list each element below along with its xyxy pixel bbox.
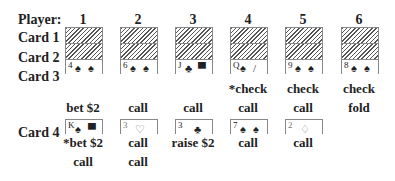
player-5-header: 5 [284,12,322,28]
p3-round3-action: call [163,101,223,115]
card-rank: 7 [233,120,238,130]
spade-icon: ♠ [240,123,246,135]
face-card-art-icon: / [253,63,256,73]
player-1-card4: K ♠ ▀ [65,119,103,134]
player-1-hand: 4 ♠ ♠ [65,27,103,74]
p4-round4-action: call [218,136,278,150]
player-6-header: 6 [340,12,378,28]
player-3-card4: 3 ♣ [175,119,213,134]
player-5-hand: 9 ♠ ♠ [285,27,323,74]
spade-icon: ♠ [351,63,357,73]
player-3-header: 3 [174,12,212,28]
p1-round4-action-2: call [53,155,113,169]
player-5-card4: 2 ♢ [285,119,323,134]
card-rank: K [68,120,75,130]
card-rank: 6 [123,60,128,70]
p1-round4-action-1: *bet $2 [53,136,113,150]
card-face: J ♣ ▀ [176,60,212,74]
player-4-header: 4 [229,12,267,28]
face-down-card-icon [176,28,212,44]
face-down-card-icon [231,44,267,60]
face-down-card-icon [231,28,267,44]
face-card-art-icon: ▀ [198,63,206,73]
card3-label: Card 3 [18,69,60,85]
face-down-card-icon [176,44,212,60]
spade-icon: ♠ [240,63,246,73]
face-card-art-icon: ▀ [88,123,96,135]
card-rank: 4 [68,60,73,70]
spade-icon: ♠ [295,63,301,73]
player-2-card4: 3 ♡ [120,119,158,134]
p1-round3-action: bet $2 [53,101,113,115]
player-label: Player: [18,12,62,28]
card-face: Q ♠ / [231,60,267,74]
player-2-header: 2 [119,12,157,28]
card-face: 9 ♠ ♠ [286,60,322,74]
face-down-card-icon [342,28,378,44]
card-rank: Q [233,60,240,70]
player-4-card4: 7 ♠ ♠ [230,119,268,134]
spade-icon: ♠ [143,63,149,73]
p2-round4-action-1: call [108,136,168,150]
card-rank: 9 [288,60,293,70]
face-down-card-icon [286,44,322,60]
card-face: 4 ♠ ♠ [66,60,102,74]
club-icon: ♣ [185,63,192,73]
p2-round3-action: call [108,101,168,115]
face-down-card-icon [286,28,322,44]
card-rank: 3 [123,120,128,130]
card-rank: 8 [344,60,349,70]
p6-round3-action-2: fold [329,101,389,115]
card-rank: 3 [178,120,183,130]
p4-round3-action-1: *check [218,82,278,96]
face-down-card-icon [66,44,102,60]
p6-round3-action-1: check [329,82,389,96]
player-4-hand: Q ♠ / [230,27,268,74]
p3-round4-action: raise $2 [163,136,223,150]
spade-icon: ♠ [88,63,94,73]
face-down-card-icon [121,28,157,44]
card-rank: 2 [288,120,293,130]
p5-round4-action: call [273,136,333,150]
spade-icon: ♠ [130,63,136,73]
face-down-card-icon [342,44,378,60]
p5-round3-action-2: call [273,101,333,115]
card-face: 8 ♠ ♠ [342,60,378,74]
spade-icon: ♠ [75,123,81,135]
player-3-hand: J ♣ ▀ [175,27,213,74]
card-face: 6 ♠ ♠ [121,60,157,74]
card-rank: J [178,60,182,70]
p5-round3-action-1: check [273,82,333,96]
spade-icon: ♠ [75,63,81,73]
spade-icon: ♠ [253,123,259,135]
face-down-card-icon [66,28,102,44]
face-down-card-icon [121,44,157,60]
spade-icon: ♠ [308,63,314,73]
player-1-header: 1 [64,12,102,28]
card2-label: Card 2 [18,50,60,66]
spade-icon: ♠ [364,63,370,73]
p2-round4-action-2: call [108,155,168,169]
player-6-hand: 8 ♠ ♠ [341,27,379,74]
player-2-hand: 6 ♠ ♠ [120,27,158,74]
club-icon: ♣ [194,123,201,135]
card1-label: Card 1 [18,30,60,46]
p4-round3-action-2: call [218,101,278,115]
